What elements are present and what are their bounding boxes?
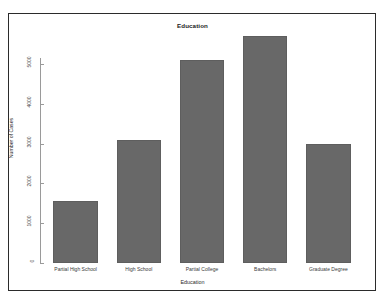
bar-series bbox=[44, 32, 360, 263]
x-axis-tick-label: Graduate Degree bbox=[309, 266, 348, 272]
bar bbox=[306, 144, 350, 263]
bar bbox=[117, 140, 161, 263]
y-axis-title: Number of Cases bbox=[8, 103, 14, 173]
x-axis-tick-label: Partial High School bbox=[54, 266, 97, 272]
y-axis-tick bbox=[40, 263, 44, 264]
y-axis-tick-label: 0 bbox=[0, 258, 34, 264]
chart-figure: Education 010002000300040005000 Number o… bbox=[0, 0, 385, 301]
x-axis-tick-label: High School bbox=[125, 266, 152, 272]
y-axis-tick-label: 5000 bbox=[0, 59, 34, 65]
y-axis-tick-label: 2000 bbox=[0, 178, 34, 184]
y-axis-line bbox=[40, 58, 41, 264]
y-axis-tick-label: 4000 bbox=[0, 99, 34, 105]
x-axis-title: Education bbox=[0, 279, 385, 285]
x-axis-tick-label: Partial College bbox=[186, 266, 219, 272]
bar bbox=[243, 36, 287, 263]
x-axis-tick-label: Bachelors bbox=[254, 266, 276, 272]
bar bbox=[53, 201, 97, 263]
y-axis-tick-label: 1000 bbox=[0, 218, 34, 224]
y-axis-tick-label: 3000 bbox=[0, 139, 34, 145]
chart-title: Education bbox=[0, 22, 385, 29]
bar bbox=[180, 60, 224, 263]
